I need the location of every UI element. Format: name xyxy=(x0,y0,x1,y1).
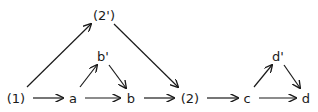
node-a: a xyxy=(69,91,77,106)
edges-group xyxy=(27,24,300,98)
arrow-dp-to-d xyxy=(284,65,300,88)
arrow-c-to-dp xyxy=(254,65,272,87)
node-bp: b' xyxy=(97,49,109,64)
node-c: c xyxy=(243,91,250,106)
node-b: b xyxy=(127,91,135,106)
node-n2p: (2') xyxy=(93,8,115,23)
node-n1: (1) xyxy=(7,91,25,106)
node-dp: d' xyxy=(272,49,284,64)
arrow-n1-to-n2p xyxy=(27,24,91,87)
directed-graph-diagram: (1)ab(2)cd(2')b'd' xyxy=(0,0,318,112)
node-n2: (2) xyxy=(181,91,199,106)
arrow-bp-to-b xyxy=(109,65,126,88)
arrow-n2p-to-n2 xyxy=(114,24,178,87)
nodes-group: (1)ab(2)cd(2')b'd' xyxy=(7,8,310,106)
arrow-a-to-bp xyxy=(80,65,97,87)
node-d: d xyxy=(302,91,310,106)
